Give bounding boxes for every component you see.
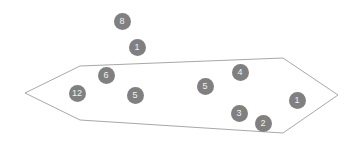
marker-3[interactable]: 3 [231,105,248,122]
marker-label: 3 [236,108,241,117]
marker-label: 5 [202,81,207,90]
marker-1-top[interactable]: 1 [129,39,146,56]
marker-5-low[interactable]: 5 [127,87,144,104]
plane-layer [0,0,353,148]
marker-label: 1 [134,42,139,51]
marker-label: 6 [103,70,108,79]
marker-label: 5 [132,90,137,99]
marker-12[interactable]: 12 [69,85,86,102]
marker-2[interactable]: 2 [255,115,272,132]
marker-1-right[interactable]: 1 [289,92,306,109]
marker-4[interactable]: 4 [232,64,249,81]
scene-canvas: 81645125132 [0,0,353,148]
marker-label: 1 [294,95,299,104]
marker-label: 4 [237,67,242,76]
marker-label: 2 [260,118,265,127]
marker-6[interactable]: 6 [98,67,115,84]
marker-5-mid[interactable]: 5 [197,78,214,95]
marker-8[interactable]: 8 [114,13,131,30]
marker-label: 8 [119,16,124,25]
marker-label: 12 [72,88,82,97]
